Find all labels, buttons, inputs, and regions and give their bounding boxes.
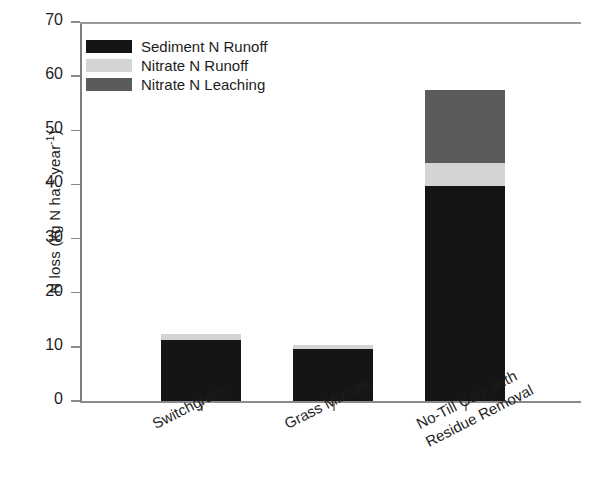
y-axis-tick xyxy=(71,400,80,402)
bar-segment xyxy=(425,90,505,164)
legend-item: Nitrate N Leaching xyxy=(86,75,267,93)
y-axis-tick-label: 40 xyxy=(3,173,63,191)
y-axis-tick xyxy=(71,238,80,240)
y-axis-tick xyxy=(71,75,80,77)
y-axis-tick-label: 50 xyxy=(3,119,63,137)
legend-label: Nitrate N Leaching xyxy=(141,76,265,93)
y-axis-title: N loss (kg N ha-1 year-1) xyxy=(45,62,63,362)
y-axis-tick xyxy=(71,346,80,348)
legend: Sediment N RunoffNitrate N RunoffNitrate… xyxy=(86,37,267,94)
y-axis-tick-label: 0 xyxy=(3,390,63,408)
y-axis-tick-label: 20 xyxy=(3,282,63,300)
legend-swatch xyxy=(86,59,132,72)
legend-item: Sediment N Runoff xyxy=(86,37,267,55)
y-axis-line xyxy=(80,22,82,402)
bar-segment xyxy=(425,186,505,401)
legend-label: Nitrate N Runoff xyxy=(141,57,248,74)
y-axis-tick-label: 60 xyxy=(3,65,63,83)
y-axis-tick xyxy=(71,184,80,186)
y-axis-tick xyxy=(71,292,80,294)
legend-swatch xyxy=(86,40,132,53)
legend-item: Nitrate N Runoff xyxy=(86,56,267,74)
y-axis-tick-label: 30 xyxy=(3,228,63,246)
y-axis-tick xyxy=(71,130,80,132)
y-axis-tick-label: 70 xyxy=(3,11,63,29)
bar-segment xyxy=(425,163,505,185)
bar-segment xyxy=(161,334,241,340)
bar-segment xyxy=(293,345,373,349)
legend-label: Sediment N Runoff xyxy=(141,38,267,55)
y-axis-tick xyxy=(71,21,80,23)
legend-swatch xyxy=(86,78,132,91)
y-axis-tick-label: 10 xyxy=(3,336,63,354)
plot-top-frame xyxy=(80,22,581,24)
chart-figure: N loss (kg N ha-1 year-1) 01020304050607… xyxy=(0,0,589,504)
